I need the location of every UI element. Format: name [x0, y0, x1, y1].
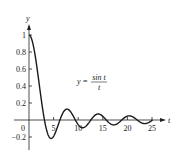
- svg-text:20: 20: [123, 124, 131, 133]
- svg-text:15: 15: [99, 124, 107, 133]
- chart: t y 1 0.8 0.6 0.4 0.2 −0.2 0 5 10 15 20 …: [0, 0, 176, 162]
- x-tick-labels: 0 5 10 15 20 25: [21, 124, 156, 133]
- svg-text:0.4: 0.4: [16, 82, 26, 91]
- svg-text:−0.2: −0.2: [11, 133, 26, 142]
- svg-text:0: 0: [21, 124, 25, 133]
- svg-text:0.6: 0.6: [16, 65, 26, 74]
- svg-text:5: 5: [52, 124, 56, 133]
- x-axis-arrow-icon: [160, 118, 166, 122]
- svg-text:1: 1: [22, 31, 26, 40]
- y-axis-label: y: [25, 14, 30, 23]
- sinc-curve: [29, 35, 153, 138]
- y-axis-arrow-icon: [27, 24, 31, 30]
- function-annotation: y = sin t t: [76, 73, 107, 92]
- y-ticks: [29, 35, 32, 137]
- svg-text:25: 25: [148, 124, 156, 133]
- svg-text:t: t: [98, 83, 101, 92]
- x-axis-label: t: [168, 116, 171, 125]
- svg-text:0.8: 0.8: [16, 48, 26, 57]
- svg-text:0.2: 0.2: [16, 99, 26, 108]
- svg-text:sin t: sin t: [92, 73, 106, 82]
- svg-text:y =: y =: [76, 77, 88, 86]
